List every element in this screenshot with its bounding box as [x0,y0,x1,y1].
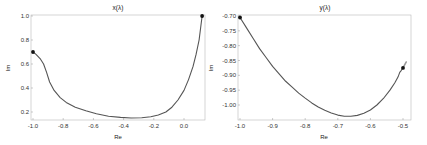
x-tick-label: -0.6 [365,123,376,129]
x-tick-label: -0.8 [58,123,69,129]
x-axis-label: Re [320,134,328,140]
y-tick-label: -0.80 [222,43,236,49]
marker-end [401,66,405,70]
y-tick-label: -0.90 [222,72,236,78]
chart-title: x(λ) [113,4,124,12]
x-tick-label: 0.0 [180,123,189,129]
y-tick-label: -1.00 [222,102,236,108]
panel-y-lambda: y(λ) Re Im -1.0-0.9-0.8-0.7-0.6-0.5-0.70… [208,4,411,140]
figure-canvas: x(λ) Re Im -1.0-0.8-0.6-0.4-0.20.00.20.4… [0,0,427,145]
y-tick-label: 1.0 [21,13,30,19]
y-axis-label: Im [5,65,11,72]
plot-frame [238,15,411,120]
x-tick-label: -0.5 [398,123,409,129]
y-tick-label: 0.6 [21,61,30,67]
y-tick-label: -0.85 [222,58,236,64]
y-tick-label: 0.2 [21,109,30,115]
x-tick-label: -0.2 [149,123,160,129]
x-tick-label: -1.0 [235,123,246,129]
x-tick-label: -0.4 [118,123,129,129]
marker-end [200,14,204,18]
marker-start [31,50,35,54]
x-tick-label: -0.8 [300,123,311,129]
y-tick-label: -0.70 [222,13,236,19]
figure: x(λ) Re Im -1.0-0.8-0.6-0.4-0.20.00.20.4… [0,0,427,145]
marker-start [238,16,242,20]
y-tick-label: 0.8 [21,37,30,43]
panel-x-lambda: x(λ) Re Im -1.0-0.8-0.6-0.4-0.20.00.20.4… [5,4,205,140]
x-tick-label: -1.0 [28,123,39,129]
x-tick-label: -0.7 [333,123,344,129]
x-axis-label: Re [114,134,122,140]
y-tick-label: -0.95 [222,87,236,93]
x-tick-label: -0.9 [267,123,278,129]
y-tick-label: 0.4 [21,85,30,91]
y-tick-label: -0.75 [222,28,236,34]
plot-frame [31,15,205,120]
y-axis-label: Im [208,65,214,72]
chart-title: y(λ) [320,4,331,12]
x-tick-label: -0.6 [88,123,99,129]
